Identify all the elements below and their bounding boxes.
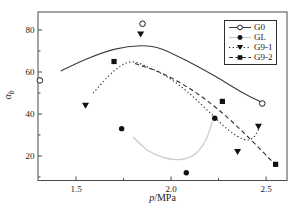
y-axis-label: αb xyxy=(2,77,16,113)
data-point-g9-2-2 xyxy=(220,99,225,104)
y-tick-label: 40 xyxy=(26,109,36,119)
y-tick-label: 80 xyxy=(26,25,36,35)
data-point-g9-1-2 xyxy=(137,31,144,37)
legend-label-g9-1: G9-1 xyxy=(254,43,273,52)
data-point-g9-2-1 xyxy=(111,59,116,64)
y-axis-symbol: α xyxy=(2,94,13,99)
g0-line-circle-icon xyxy=(228,23,252,32)
x-axis-label: p/MPa xyxy=(38,192,287,203)
data-point-g9-1-1 xyxy=(82,103,89,109)
legend-label-g0: G0 xyxy=(254,23,265,32)
y-tick-label: 60 xyxy=(26,67,36,77)
chart-figure: 1.52.02.520406080 αb p/MPa G0 GL G9-1 xyxy=(0,0,294,215)
data-point-g0-1 xyxy=(37,78,43,84)
data-point-gl-3 xyxy=(212,115,217,120)
legend-label-g9-2: G9-2 xyxy=(254,53,273,62)
x-axis-unit: /MPa xyxy=(154,192,176,203)
g9-1-dotted-triangle-icon xyxy=(228,43,252,52)
data-point-g9-2-3 xyxy=(273,162,278,167)
fit-curve-gl xyxy=(133,120,213,159)
y-tick-label: 20 xyxy=(26,151,36,161)
y-axis-subscript: b xyxy=(7,91,16,95)
legend-label-gl: GL xyxy=(254,33,266,42)
data-point-g0-2 xyxy=(140,21,146,27)
legend: G0 GL G9-1 G9-2 xyxy=(224,20,277,65)
data-point-g9-1-4 xyxy=(255,124,262,130)
data-point-gl-2 xyxy=(184,170,189,175)
fit-curve-g9-1 xyxy=(93,62,259,140)
data-point-g9-1-3 xyxy=(234,149,241,155)
gl-line-dot-icon xyxy=(228,33,252,42)
g9-2-dashed-square-icon xyxy=(228,53,252,62)
legend-item-g9-2: G9-2 xyxy=(228,53,273,63)
data-point-gl-1 xyxy=(119,126,124,131)
data-point-g0-3 xyxy=(259,101,265,107)
fit-curve-g9-2 xyxy=(135,64,276,165)
